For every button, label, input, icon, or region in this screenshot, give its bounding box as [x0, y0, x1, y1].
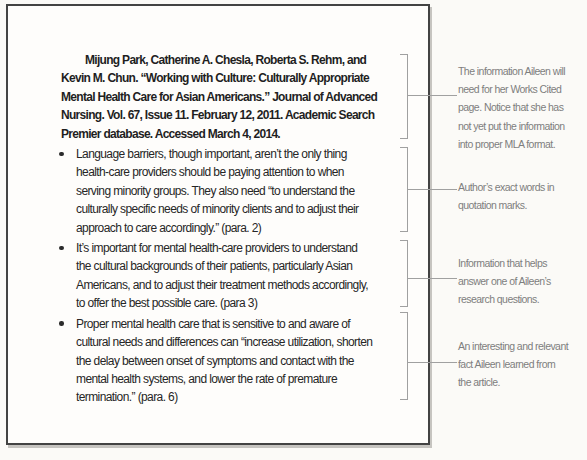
bullet-item-proper-care: Proper mental health care that is sensit…	[76, 315, 423, 407]
connector-line-bullet-2	[407, 278, 457, 279]
annotation-works-cited: The information Aileen willneed for her …	[458, 62, 587, 153]
bullet-dot-icon	[59, 321, 64, 326]
note-text-column: Mijung Park, Catherine A. Chesla, Robert…	[61, 51, 423, 407]
connector-line-citation	[407, 95, 457, 96]
bullet-dot-icon	[59, 152, 64, 157]
bullet-text: It’s important for mental health-care pr…	[76, 239, 423, 313]
connector-line-bullet-1	[407, 189, 457, 190]
annotation-research-question: Information that helpsanswer one of Aile…	[458, 254, 587, 309]
bullet-text: Proper mental health care that is sensit…	[76, 315, 423, 407]
connector-line-bullet-3	[407, 362, 457, 363]
note-card: Mijung Park, Catherine A. Chesla, Robert…	[6, 4, 430, 445]
bracket-citation	[400, 54, 408, 139]
annotation-relevant-fact: An interesting and relevantfact Aileen l…	[458, 337, 587, 392]
figure-page: Mijung Park, Catherine A. Chesla, Robert…	[0, 0, 587, 460]
bracket-bullet-3	[400, 312, 408, 400]
bullet-item-cultural-backgrounds: It’s important for mental health-care pr…	[76, 239, 423, 313]
bullet-item-language-barriers: Language barriers, though important, are…	[76, 145, 423, 237]
bracket-bullet-2	[400, 240, 408, 307]
annotation-exact-words: Author’s exact words inquotation marks.	[458, 178, 587, 214]
citation-block: Mijung Park, Catherine A. Chesla, Robert…	[61, 51, 423, 143]
bullet-dot-icon	[59, 246, 64, 251]
bullet-text: Language barriers, though important, are…	[76, 145, 423, 237]
